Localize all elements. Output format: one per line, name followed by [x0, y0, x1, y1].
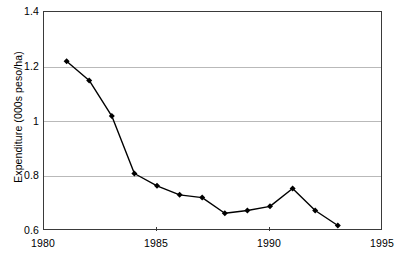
x-axis-tick-labels: 1980198519901995	[0, 0, 400, 262]
x-axis-tick-label: 1985	[126, 238, 186, 249]
x-axis-tick-label: 1995	[352, 238, 400, 249]
x-axis-tick-label: 1980	[13, 238, 73, 249]
expenditure-line-chart: Expenditure (000s peso/ha) 0.60.811.21.4…	[0, 0, 400, 262]
x-axis-tick-mark	[269, 227, 270, 231]
x-axis-tick-label: 1990	[239, 238, 299, 249]
x-axis-tick-mark	[156, 227, 157, 231]
